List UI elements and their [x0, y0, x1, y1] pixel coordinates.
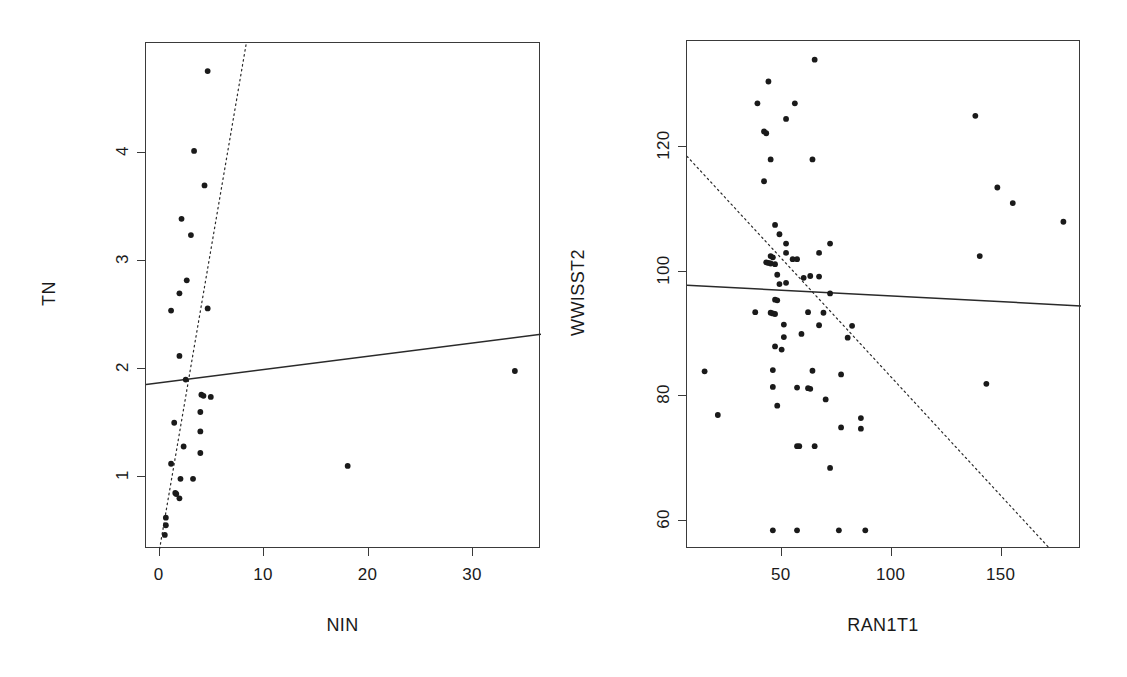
data-point	[858, 415, 864, 421]
regression-line-dotted	[160, 43, 247, 549]
data-point	[208, 394, 214, 400]
regression-line-solid	[146, 334, 541, 384]
data-point	[821, 310, 827, 316]
data-point	[862, 527, 868, 533]
x-tick-mark	[368, 548, 369, 556]
panel-right-wwisst2-ran1t1: 501001506080100120 RAN1T1 WWISST2	[563, 0, 1127, 677]
data-point	[807, 386, 813, 392]
data-point	[168, 461, 174, 467]
data-point	[177, 353, 183, 359]
data-point	[781, 334, 787, 340]
data-point	[702, 368, 708, 374]
x-axis-title-right: RAN1T1	[783, 615, 983, 636]
x-tick-label: 50	[751, 565, 811, 585]
data-point	[772, 222, 778, 228]
data-point	[763, 130, 769, 136]
data-point	[983, 381, 989, 387]
data-point	[768, 157, 774, 163]
y-axis-title-left: TN	[39, 224, 60, 364]
data-point	[184, 277, 190, 283]
data-point	[796, 443, 802, 449]
data-point	[779, 347, 785, 353]
data-point	[772, 261, 778, 267]
data-point	[810, 368, 816, 374]
data-point	[1010, 200, 1016, 206]
data-point	[190, 476, 196, 482]
y-tick-mark	[137, 368, 145, 369]
data-point	[810, 157, 816, 163]
y-axis-title-right: WWISST2	[568, 223, 589, 363]
data-point	[770, 367, 776, 373]
data-point	[805, 309, 811, 315]
y-tick-mark	[678, 395, 686, 396]
data-point	[823, 397, 829, 403]
data-point	[781, 322, 787, 328]
data-point	[849, 323, 855, 329]
data-point	[774, 403, 780, 409]
data-point	[827, 465, 833, 471]
data-point	[163, 515, 169, 521]
data-point	[183, 377, 189, 383]
x-tick-mark	[781, 548, 782, 556]
y-tick-mark	[137, 476, 145, 477]
data-point	[812, 443, 818, 449]
data-point	[181, 444, 187, 450]
data-point	[755, 100, 761, 106]
data-point	[179, 216, 185, 222]
data-point	[794, 256, 800, 262]
data-point	[171, 420, 177, 426]
data-point	[770, 254, 776, 260]
x-tick-label: 150	[971, 565, 1031, 585]
data-point	[766, 79, 772, 85]
data-point	[774, 272, 780, 278]
data-point	[858, 426, 864, 432]
y-tick-label: 4	[113, 121, 133, 181]
x-tick-mark	[472, 548, 473, 556]
data-point	[777, 281, 783, 287]
plot-frame-right	[686, 40, 1080, 548]
data-point	[994, 185, 1000, 191]
data-point	[838, 372, 844, 378]
data-point	[512, 368, 518, 374]
data-point	[197, 409, 203, 415]
data-point	[177, 290, 183, 296]
data-point	[205, 306, 211, 312]
data-point	[752, 309, 758, 315]
data-point	[827, 241, 833, 247]
data-point	[770, 384, 776, 390]
data-point	[168, 308, 174, 314]
data-point	[792, 100, 798, 106]
data-point	[783, 116, 789, 122]
data-point	[827, 291, 833, 297]
panel-left-tn-nin: 01020301234 NIN TN	[0, 0, 563, 677]
scatterplot-figure: 01020301234 NIN TN 501001506080100120 RA…	[0, 0, 1127, 677]
data-point	[774, 297, 780, 303]
data-point	[163, 522, 169, 528]
data-point	[197, 429, 203, 435]
data-point	[770, 527, 776, 533]
y-tick-mark	[678, 271, 686, 272]
data-point	[783, 280, 789, 286]
data-point	[197, 450, 203, 456]
y-tick-mark	[137, 260, 145, 261]
data-point	[972, 113, 978, 119]
data-point	[1060, 219, 1066, 225]
x-tick-label: 0	[129, 565, 189, 585]
x-tick-mark	[263, 548, 264, 556]
x-tick-label: 30	[442, 565, 502, 585]
data-point	[191, 148, 197, 154]
data-point	[794, 385, 800, 391]
y-tick-label: 80	[654, 364, 674, 424]
data-point	[783, 241, 789, 247]
data-point	[838, 425, 844, 431]
data-point	[178, 476, 184, 482]
data-point	[202, 183, 208, 189]
y-tick-mark	[678, 520, 686, 521]
data-point	[836, 527, 842, 533]
data-point	[807, 273, 813, 279]
plot-frame-left	[145, 42, 540, 548]
y-tick-label: 3	[113, 229, 133, 289]
y-tick-label: 1	[113, 445, 133, 505]
y-tick-mark	[678, 146, 686, 147]
y-tick-label: 100	[654, 240, 674, 300]
